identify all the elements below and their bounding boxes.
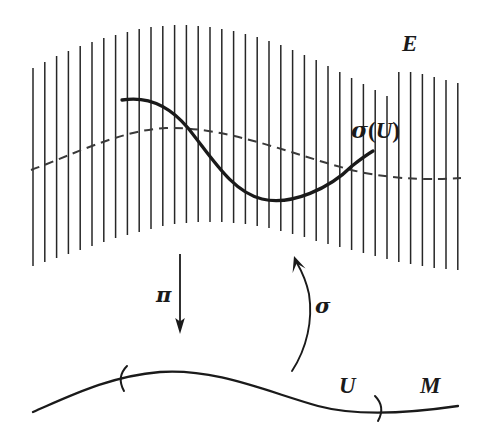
section-arrow xyxy=(292,256,310,371)
diagram-canvas xyxy=(0,0,480,448)
u-glyph: U xyxy=(376,118,393,143)
fiber-bundle-diagram: E σ(U) π σ U M xyxy=(0,0,480,448)
bracket-right-paren xyxy=(375,396,381,421)
label-section-image-sigma-U: σ(U) xyxy=(351,118,400,142)
sigma-glyph: σ xyxy=(351,116,368,143)
section-curve xyxy=(122,99,373,201)
label-base-manifold-M: M xyxy=(420,374,440,397)
label-section-sigma: σ xyxy=(315,295,330,316)
close-paren-glyph: ) xyxy=(392,118,400,143)
open-paren-glyph: ( xyxy=(368,118,376,143)
label-open-set-U: U xyxy=(339,374,356,397)
label-projection-pi: π xyxy=(156,284,171,305)
base-manifold-curve xyxy=(33,372,458,413)
fiber-lines-group xyxy=(33,25,458,270)
projection-arrow xyxy=(175,254,185,334)
label-total-space-E: E xyxy=(402,32,417,55)
